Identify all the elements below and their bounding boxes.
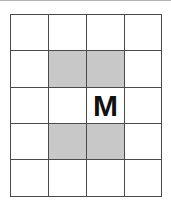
grid-cell-r2-c3 — [124, 87, 161, 123]
grid-cell-r3-c2 — [86, 123, 124, 159]
grid-cell-r0-c3 — [124, 14, 161, 50]
grid-cell-r3-c3 — [124, 123, 161, 159]
grid-cell-r3-c0 — [10, 123, 48, 159]
grid-diagram: M — [10, 14, 162, 197]
grid-cell-r4-c0 — [10, 159, 48, 196]
cell-label: M — [93, 91, 118, 121]
grid-cell-r3-c1 — [48, 123, 86, 159]
grid-cell-r0-c0 — [10, 14, 48, 50]
grid-cell-r1-c1 — [48, 50, 86, 87]
grid-cell-r2-c1 — [48, 87, 86, 123]
grid-cell-r1-c0 — [10, 50, 48, 87]
grid-cell-r4-c2 — [86, 159, 124, 196]
grid-cell-r4-c1 — [48, 159, 86, 196]
grid-cell-r1-c2 — [86, 50, 124, 87]
grid-cell-r2-c2: M — [86, 87, 124, 123]
grid-cell-r1-c3 — [124, 50, 161, 87]
top-rule-divider — [0, 0, 171, 1]
grid-cell-r0-c1 — [48, 14, 86, 50]
grid-cell-r0-c2 — [86, 14, 124, 50]
grid-cell-r2-c0 — [10, 87, 48, 123]
grid-cell-r4-c3 — [124, 159, 161, 196]
